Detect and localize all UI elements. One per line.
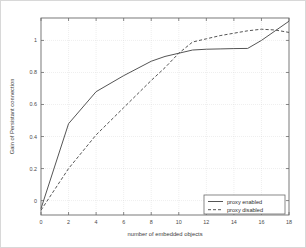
x-tick-label: 0 [40,219,43,225]
chart-figure: 024681012141618 00.20.40.60.81 number of… [0,0,306,248]
y-axis-title: Gain of Persistant connection [9,79,15,155]
x-tick-label: 8 [150,219,153,225]
y-tick-label: 0.2 [30,166,38,172]
x-tick-label: 10 [176,219,182,225]
gridlines [41,18,289,215]
y-tick-labels: 00.20.40.60.81 [30,37,38,203]
x-tick-label: 2 [67,219,70,225]
x-tick-label: 18 [286,219,292,225]
chart-legend[interactable]: proxy enabledproxy disabled [204,195,285,214]
legend-label-proxy-enabled: proxy enabled [227,199,262,205]
line-chart: 024681012141618 00.20.40.60.81 number of… [1,1,306,248]
legend-label-proxy-disabled: proxy disabled [227,207,263,213]
y-tick-label: 0.8 [30,69,38,75]
y-tick-label: 0 [34,198,37,204]
y-tick-label: 1 [34,37,37,43]
x-tick-label: 16 [258,219,264,225]
x-tick-label: 12 [203,219,209,225]
x-tick-label: 4 [95,219,98,225]
x-tick-labels: 024681012141618 [40,219,293,225]
series-line-proxy-enabled [41,21,289,208]
x-axis-title: number of embedded objects [127,231,202,237]
y-tick-label: 0.4 [30,134,38,140]
x-tick-label: 6 [122,219,125,225]
plot-frame [41,18,289,215]
tick-marks [41,18,289,215]
x-tick-label: 14 [231,219,237,225]
data-series [41,21,289,210]
y-tick-label: 0.6 [30,101,38,107]
